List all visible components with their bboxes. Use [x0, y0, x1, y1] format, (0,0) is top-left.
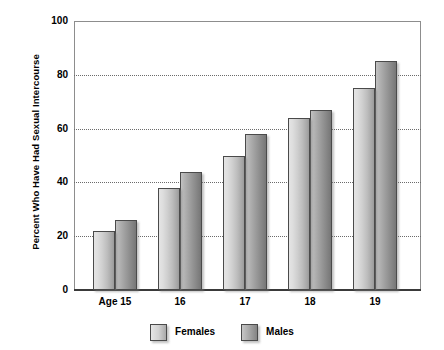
legend-item-females: Females — [150, 324, 215, 341]
y-tick-label-100: 100 — [40, 16, 68, 26]
x-tick-label-19: 19 — [330, 296, 420, 308]
y-tick-label-60: 60 — [40, 124, 68, 134]
bar-chart: Percent Who Have Had Sexual Intercourse … — [0, 0, 444, 350]
bar-males-17 — [245, 134, 267, 290]
y-tick-label-40: 40 — [40, 177, 68, 187]
y-tick-label-0: 0 — [40, 285, 68, 295]
legend-item-males: Males — [241, 324, 294, 341]
bar-females-age-15 — [93, 231, 115, 290]
y-axis-title: Percent Who Have Had Sexual Intercourse — [28, 12, 44, 292]
gridline-80 — [74, 75, 421, 76]
bar-males-age-15 — [115, 220, 137, 290]
bar-females-16 — [158, 188, 180, 290]
legend-label-females: Females — [175, 327, 215, 337]
bar-females-17 — [223, 156, 245, 291]
chart-legend: FemalesMales — [0, 320, 444, 344]
bar-males-18 — [310, 110, 332, 290]
y-tick-label-20: 20 — [40, 231, 68, 241]
bar-males-16 — [180, 172, 202, 290]
bar-females-18 — [288, 118, 310, 290]
legend-label-males: Males — [266, 327, 294, 337]
bar-males-19 — [375, 61, 397, 290]
bar-females-19 — [353, 88, 375, 290]
female-swatch — [150, 324, 167, 341]
male-swatch — [241, 324, 258, 341]
y-tick-label-80: 80 — [40, 70, 68, 80]
